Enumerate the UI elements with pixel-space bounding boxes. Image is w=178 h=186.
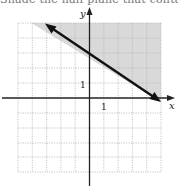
y-axis-arrow-icon bbox=[87, 7, 93, 15]
x-axis bbox=[2, 95, 175, 101]
x-tick-label: 1 bbox=[101, 102, 107, 112]
x-axis-label: x bbox=[169, 100, 175, 111]
coordinate-graph: y x 1 1 bbox=[0, 0, 178, 186]
y-tick-label: 1 bbox=[80, 80, 86, 90]
y-axis-label: y bbox=[79, 8, 86, 19]
